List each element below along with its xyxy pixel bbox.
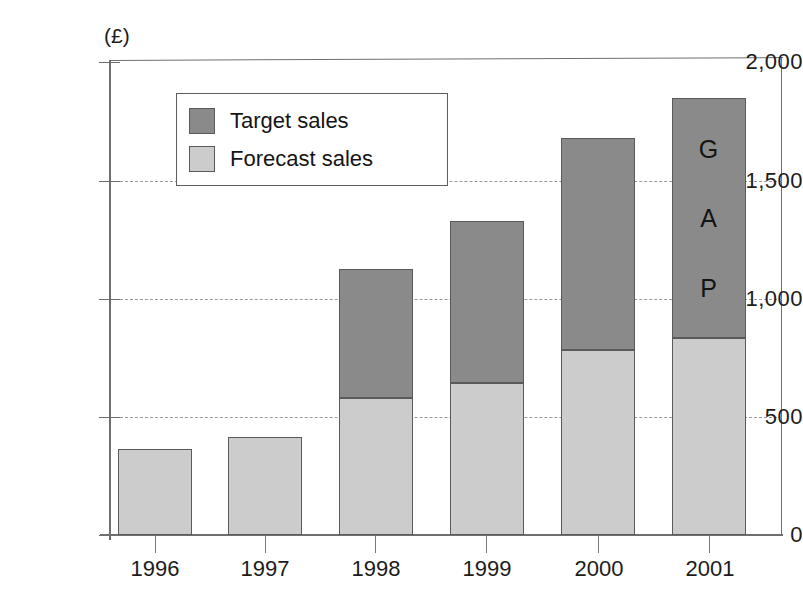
y-tick-500	[99, 417, 120, 418]
gap-annotation: G A P	[673, 137, 745, 300]
legend-label-forecast-sales: Forecast sales	[230, 146, 373, 172]
y-tick-1000	[99, 299, 120, 300]
x-tick-1998	[375, 535, 376, 553]
sales-gap-chart: (£) 2,000 1,500 1,000 500 0 1996 1997 19…	[0, 0, 803, 600]
plot-top-border	[110, 57, 783, 61]
x-axis-label-1999: 1999	[427, 556, 547, 582]
bar-2001[interactable]: G A P	[672, 98, 746, 535]
legend-item-forecast-sales[interactable]: Forecast sales	[189, 140, 447, 178]
x-axis-label-1998: 1998	[316, 556, 436, 582]
bar-2000[interactable]	[561, 138, 635, 535]
x-tick-1999	[486, 535, 487, 553]
gap-letter-p: P	[700, 276, 718, 301]
x-axis-label-2001: 2001	[650, 556, 770, 582]
bar-1998-target-segment[interactable]	[339, 269, 413, 398]
bar-1997-forecast-segment[interactable]	[228, 437, 302, 535]
x-tick-1997	[265, 535, 266, 553]
y-tick-2000	[99, 62, 120, 63]
bar-1996-forecast-segment[interactable]	[118, 449, 192, 535]
y-tick-1500	[99, 181, 120, 182]
y-axis-unit-label: (£)	[104, 24, 130, 48]
x-axis-label-2000: 2000	[539, 556, 659, 582]
x-axis-label-1997: 1997	[205, 556, 325, 582]
y-tick-0	[99, 535, 120, 536]
chart-legend: Target sales Forecast sales	[176, 93, 448, 186]
bar-2001-target-segment[interactable]: G A P	[672, 98, 746, 338]
bar-1998-forecast-segment[interactable]	[339, 398, 413, 535]
bar-1999-forecast-segment[interactable]	[450, 383, 524, 535]
x-axis-label-1996: 1996	[95, 556, 215, 582]
bar-1999[interactable]	[450, 221, 524, 535]
x-tick-2000	[598, 535, 599, 553]
bar-1997[interactable]	[228, 437, 302, 535]
x-tick-2001	[709, 535, 710, 553]
bar-2000-forecast-segment[interactable]	[561, 350, 635, 535]
bar-1996[interactable]	[118, 449, 192, 535]
gap-letter-a: A	[700, 206, 718, 231]
legend-item-target-sales[interactable]: Target sales	[189, 102, 447, 140]
bar-1998[interactable]	[339, 269, 413, 535]
legend-swatch-target-sales	[189, 108, 215, 134]
gap-letter-g: G	[699, 137, 719, 162]
y-axis-label-2000: 2,000	[711, 49, 803, 75]
bar-2001-forecast-segment[interactable]	[672, 338, 746, 535]
y-axis-line	[109, 60, 111, 540]
bar-1999-target-segment[interactable]	[450, 221, 524, 383]
legend-label-target-sales: Target sales	[230, 108, 349, 134]
legend-swatch-forecast-sales	[189, 146, 215, 172]
bar-2000-target-segment[interactable]	[561, 138, 635, 350]
x-tick-1996	[155, 535, 156, 553]
